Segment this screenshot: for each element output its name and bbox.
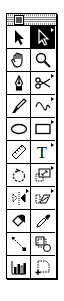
autotrace-icon [34, 235, 52, 253]
scale-tool-button[interactable] [31, 164, 55, 187]
page-marquee-icon [34, 258, 52, 276]
hollow-arrow-icon [34, 28, 52, 46]
reflect-tool-button[interactable] [7, 187, 31, 210]
brush-tool-button[interactable] [7, 95, 31, 118]
ruler-icon [10, 143, 28, 161]
submenu-indicator-icon [51, 166, 54, 170]
arrow-icon [10, 28, 28, 46]
reflect-icon [10, 189, 28, 207]
graph-tool-button[interactable] [7, 256, 31, 278]
rectangle-icon [34, 120, 52, 138]
freehand-tool-button[interactable] [31, 95, 55, 118]
svg-text:T: T [37, 144, 47, 161]
magnifier-icon [34, 51, 52, 69]
rotate-tool-button[interactable] [7, 164, 31, 187]
scale-icon [34, 166, 52, 184]
bar-graph-icon [10, 258, 28, 276]
blend-tool-button[interactable] [7, 233, 31, 256]
paint-bucket-tool-button[interactable] [7, 210, 31, 233]
type-tool-button[interactable]: T [31, 141, 55, 164]
direct-selection-tool-button[interactable] [31, 26, 55, 49]
rotate-icon [10, 166, 28, 184]
tool-palette: T [6, 13, 57, 279]
palette-titlebar[interactable] [7, 14, 56, 26]
blend-icon [10, 235, 28, 253]
measure-tool-button[interactable] [7, 141, 31, 164]
close-box-button[interactable] [14, 15, 24, 25]
ellipse-icon [10, 120, 28, 138]
hand-tool-button[interactable] [7, 49, 31, 72]
tool-grid: T [7, 26, 56, 278]
scissors-icon [34, 74, 52, 92]
pen-nib-icon [10, 74, 28, 92]
selection-tool-button[interactable] [7, 26, 31, 49]
submenu-indicator-icon [51, 143, 54, 147]
autotrace-tool-button[interactable] [31, 233, 55, 256]
submenu-indicator-icon [51, 120, 54, 124]
page-tool-button[interactable] [31, 256, 55, 278]
squiggle-icon [34, 97, 52, 115]
rectangle-tool-button[interactable] [31, 118, 55, 141]
shear-tool-button[interactable] [31, 187, 55, 210]
submenu-indicator-icon [51, 28, 54, 32]
shear-icon [34, 189, 52, 207]
scissors-tool-button[interactable] [31, 72, 55, 95]
submenu-indicator-icon [26, 189, 29, 193]
submenu-indicator-icon [51, 74, 54, 78]
type-t-icon: T [34, 143, 52, 161]
eyedropper-icon [34, 212, 52, 230]
paint-bucket-icon [10, 212, 28, 230]
zoom-tool-button[interactable] [31, 49, 55, 72]
pen-tool-button[interactable] [7, 72, 31, 95]
oval-tool-button[interactable] [7, 118, 31, 141]
brush-icon [10, 97, 28, 115]
submenu-indicator-icon [51, 97, 54, 101]
eyedropper-tool-button[interactable] [31, 210, 55, 233]
submenu-indicator-icon [51, 189, 54, 193]
hand-icon [10, 51, 28, 69]
